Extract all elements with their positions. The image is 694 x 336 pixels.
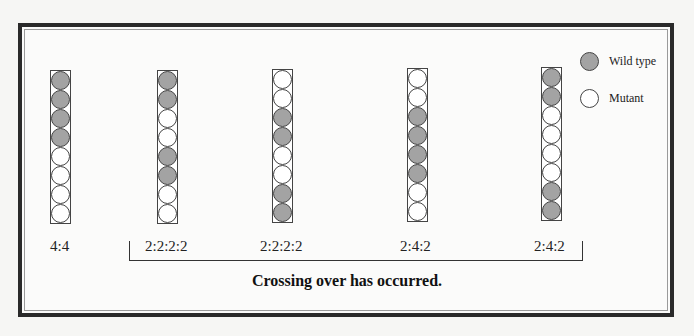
mutant-spore-icon [408,202,427,221]
ratio-label-1: 4:4 [50,238,69,255]
wild-type-spore-icon [542,182,561,201]
caption: Crossing over has occurred. [0,272,694,290]
mutant-spore-icon [542,144,561,163]
wild-type-spore-icon [408,107,427,126]
mutant-spore-icon [273,165,292,184]
wild-type-spore-icon [408,126,427,145]
mutant-spore-icon [273,70,292,89]
wild-type-swatch-icon [580,52,599,71]
wild-type-spore-icon [158,90,177,109]
legend-mutant: Mutant [580,89,644,108]
crossover-bracket [129,241,583,261]
wild-type-spore-icon [273,108,292,127]
wild-type-spore-icon [51,128,70,147]
wild-type-spore-icon [158,147,177,166]
mutant-spore-icon [158,128,177,147]
ascus-5 [541,67,562,221]
wild-type-spore-icon [158,166,177,185]
wild-type-spore-icon [158,71,177,90]
mutant-spore-icon [273,146,292,165]
mutant-spore-icon [273,89,292,108]
legend-label: Mutant [609,91,644,106]
mutant-spore-icon [408,88,427,107]
mutant-spore-icon [51,166,70,185]
ascus-3 [272,69,293,223]
wild-type-spore-icon [273,184,292,203]
mutant-spore-icon [158,204,177,223]
legend-label: Wild type [609,54,656,69]
mutant-spore-icon [542,106,561,125]
mutant-spore-icon [158,109,177,128]
wild-type-spore-icon [273,203,292,222]
mutant-swatch-icon [580,89,599,108]
wild-type-spore-icon [542,201,561,220]
mutant-spore-icon [51,204,70,223]
legend-wild-type: Wild type [580,52,656,71]
mutant-spore-icon [158,185,177,204]
mutant-spore-icon [542,163,561,182]
mutant-spore-icon [51,147,70,166]
wild-type-spore-icon [542,87,561,106]
ascus-4 [407,68,428,222]
wild-type-spore-icon [273,127,292,146]
mutant-spore-icon [408,183,427,202]
ascus-2 [157,70,178,224]
wild-type-spore-icon [51,109,70,128]
wild-type-spore-icon [408,145,427,164]
frame-inner-border [24,29,668,311]
wild-type-spore-icon [51,90,70,109]
wild-type-spore-icon [408,164,427,183]
ascus-1 [50,70,71,224]
wild-type-spore-icon [51,71,70,90]
mutant-spore-icon [51,185,70,204]
mutant-spore-icon [542,125,561,144]
wild-type-spore-icon [542,68,561,87]
mutant-spore-icon [408,69,427,88]
